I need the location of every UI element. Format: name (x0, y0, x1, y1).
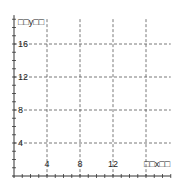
y-tick-label: 4 (18, 138, 23, 148)
x-tick-label: 4 (44, 159, 49, 169)
y-tick-label: 16 (18, 39, 28, 49)
grid-lines (14, 19, 171, 176)
x-tick-label: 8 (77, 159, 82, 169)
coordinate-plane: 4812481216 □□y□□ □□x□□ (0, 0, 184, 187)
tick-marks (12, 19, 171, 178)
x-tick-label: 12 (108, 159, 118, 169)
axes (12, 15, 171, 178)
y-tick-label: 8 (18, 105, 23, 115)
y-tick-label: 12 (18, 72, 28, 82)
y-axis-title: □□y□□ (18, 17, 45, 27)
x-axis-title: □□x□□ (144, 159, 171, 169)
tick-labels: 4812481216 (18, 39, 118, 169)
